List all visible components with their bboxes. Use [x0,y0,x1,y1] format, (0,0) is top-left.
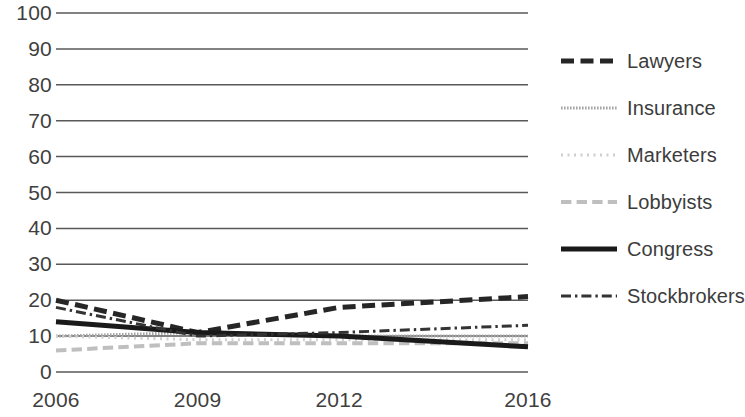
legend-swatch-lobbyists-icon [560,191,618,213]
y-axis-tick-label: 60 [8,146,52,167]
x-axis-tick-labels: 2006200920122016 [0,380,560,417]
legend-label: Marketers [627,144,717,166]
legend-item-lawyers[interactable]: Lawyers [560,46,702,76]
plot-svg [0,0,560,417]
plot-area: 0102030405060708090100 2006200920122016 [0,0,560,417]
y-axis-tick-label: 50 [8,182,52,203]
y-axis-tick-label: 10 [8,325,52,346]
x-axis-tick-label: 2016 [504,388,552,412]
y-axis-tick-label: 90 [8,38,52,59]
x-axis-tick-label: 2009 [174,388,222,412]
x-axis-tick-label: 2006 [32,388,80,412]
chart-legend: LawyersInsuranceMarketersLobbyistsCongre… [560,46,738,336]
y-axis-tick-label: 0 [8,361,52,382]
legend-label: Stockbrokers [627,285,745,307]
y-axis-tick-label: 40 [8,217,52,238]
legend-label: Insurance [627,97,716,119]
legend-item-congress[interactable]: Congress [560,234,713,264]
legend-swatch-stockbrokers-icon [560,285,618,307]
legend-label: Lobbyists [627,191,712,213]
y-axis-tick-label: 80 [8,74,52,95]
legend-swatch-insurance-icon [560,97,618,119]
x-axis-tick-label: 2012 [315,388,363,412]
legend-swatch-lawyers-icon [560,50,618,72]
legend-label: Congress [627,238,713,260]
y-axis-tick-label: 70 [8,110,52,131]
legend-label: Lawyers [627,50,702,72]
legend-item-insurance[interactable]: Insurance [560,93,716,123]
y-axis-tick-label: 100 [8,2,52,23]
series-line-stockbrokers [56,307,528,336]
legend-swatch-congress-icon [560,238,618,260]
legend-item-lobbyists[interactable]: Lobbyists [560,187,712,217]
legend-item-stockbrokers[interactable]: Stockbrokers [560,281,745,311]
legend-item-marketers[interactable]: Marketers [560,140,717,170]
legend-swatch-marketers-icon [560,144,618,166]
y-axis-tick-label: 20 [8,289,52,310]
series-lines [56,297,528,351]
y-axis-tick-label: 30 [8,253,52,274]
y-axis-tick-labels: 0102030405060708090100 [0,0,52,417]
